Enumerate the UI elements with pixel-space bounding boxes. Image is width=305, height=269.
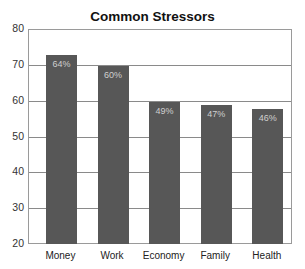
bar-health: 46%	[252, 109, 283, 244]
bar-data-label: 64%	[46, 59, 77, 69]
x-tick-label: Health	[237, 250, 297, 261]
bar-data-label: 47%	[201, 109, 232, 119]
bar-work: 60%	[98, 66, 129, 244]
y-tick-label: 30	[0, 201, 24, 213]
y-tick-label: 60	[0, 94, 24, 106]
plot-area: 64%60%49%47%46%	[28, 29, 292, 244]
bar-family: 47%	[201, 105, 232, 244]
y-tick-label: 50	[0, 130, 24, 142]
y-tick-label: 40	[0, 165, 24, 177]
bar-data-label: 46%	[252, 113, 283, 123]
chart-title: Common Stressors	[0, 9, 305, 24]
bar-data-label: 49%	[149, 106, 180, 116]
y-tick-label: 70	[0, 58, 24, 70]
bar-economy: 49%	[149, 102, 180, 244]
bar-money: 64%	[46, 55, 77, 244]
bar-data-label: 60%	[98, 70, 129, 80]
y-tick-label: 20	[0, 237, 24, 249]
y-tick-label: 80	[0, 22, 24, 34]
